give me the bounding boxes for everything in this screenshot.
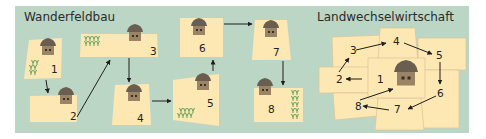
field-label-8: 8 bbox=[268, 104, 275, 115]
field-label-6: 6 bbox=[199, 43, 206, 54]
rotation-label-5: 5 bbox=[436, 50, 443, 61]
rotation-label-6: 6 bbox=[437, 88, 444, 99]
field-3 bbox=[80, 24, 158, 57]
title-landwechselwirtschaft: Landwechselwirtschaft bbox=[317, 10, 454, 24]
rotation-label-1: 1 bbox=[377, 74, 384, 85]
field-7 bbox=[252, 20, 291, 60]
field-label-7: 7 bbox=[273, 47, 280, 58]
rotation-label-7: 7 bbox=[394, 104, 401, 115]
field-label-1: 1 bbox=[51, 64, 58, 75]
hut-icon bbox=[257, 78, 273, 95]
title-wanderfeldbau: Wanderfeldbau bbox=[24, 10, 115, 24]
rotation-label-8: 8 bbox=[355, 101, 362, 112]
field-4 bbox=[112, 84, 151, 125]
field-label-4: 4 bbox=[137, 113, 144, 124]
field-label-5: 5 bbox=[207, 98, 214, 109]
hut-icon bbox=[127, 24, 143, 41]
field-label-2: 2 bbox=[70, 111, 77, 122]
field-8 bbox=[254, 78, 303, 122]
arrow-1-2 bbox=[46, 80, 48, 93]
field-label-3: 3 bbox=[150, 46, 157, 57]
hut-icon bbox=[58, 87, 74, 104]
rotation-label-2: 2 bbox=[336, 74, 343, 85]
wanderfeldbau-diagram bbox=[24, 18, 303, 126]
rotation-label-4: 4 bbox=[393, 36, 400, 47]
rotation-label-3: 3 bbox=[350, 45, 357, 56]
arrow-2-3 bbox=[77, 60, 110, 117]
